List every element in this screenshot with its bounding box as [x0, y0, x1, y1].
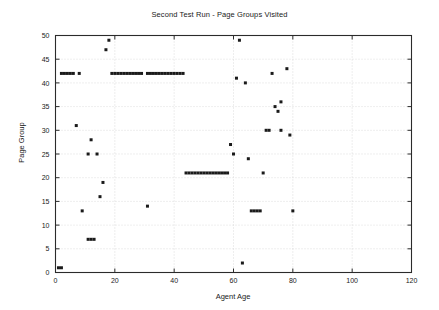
svg-text:80: 80: [289, 277, 297, 284]
svg-text:20: 20: [42, 174, 50, 181]
data-point: [164, 72, 167, 75]
data-point: [57, 266, 60, 269]
data-point: [220, 171, 223, 174]
chart-figure: Second Test Run - Page Groups Visited 05…: [0, 0, 439, 310]
data-point: [110, 72, 113, 75]
data-point: [96, 153, 99, 156]
data-point: [107, 39, 110, 42]
data-point: [214, 171, 217, 174]
svg-text:15: 15: [42, 198, 50, 205]
data-point: [265, 129, 268, 132]
svg-text:30: 30: [42, 127, 50, 134]
data-point: [119, 72, 122, 75]
data-point: [90, 138, 93, 141]
data-point: [199, 171, 202, 174]
data-point: [72, 72, 75, 75]
svg-text:50: 50: [42, 32, 50, 39]
data-point: [99, 195, 102, 198]
svg-text:45: 45: [42, 56, 50, 63]
data-point: [271, 72, 274, 75]
data-point: [256, 209, 259, 212]
data-point: [60, 72, 63, 75]
data-point: [60, 266, 63, 269]
data-point: [259, 209, 262, 212]
data-point: [182, 72, 185, 75]
data-point: [125, 72, 128, 75]
data-point: [247, 157, 250, 160]
svg-text:20: 20: [111, 277, 119, 284]
data-point: [170, 72, 173, 75]
data-point: [78, 72, 81, 75]
svg-text:100: 100: [346, 277, 358, 284]
data-point: [250, 209, 253, 212]
data-point: [104, 48, 107, 51]
data-point: [211, 171, 214, 174]
data-point: [101, 181, 104, 184]
data-point: [226, 171, 229, 174]
data-point: [93, 238, 96, 241]
svg-text:35: 35: [42, 103, 50, 110]
data-point: [262, 171, 265, 174]
data-point: [291, 209, 294, 212]
data-point: [155, 72, 158, 75]
scatter-plot: 05101520253035404550020406080100120: [0, 0, 439, 310]
x-axis-label: Agent Age: [55, 292, 411, 301]
data-point: [161, 72, 164, 75]
data-point: [81, 209, 84, 212]
data-point: [149, 72, 152, 75]
data-point: [128, 72, 131, 75]
svg-text:40: 40: [170, 277, 178, 284]
data-point: [288, 134, 291, 137]
data-point: [229, 143, 232, 146]
svg-text:5: 5: [46, 245, 50, 252]
data-point: [241, 262, 244, 265]
data-point: [235, 77, 238, 80]
data-point: [63, 72, 66, 75]
data-point: [279, 129, 282, 132]
data-point: [131, 72, 134, 75]
data-point: [87, 153, 90, 156]
data-point: [66, 72, 69, 75]
svg-text:25: 25: [42, 151, 50, 158]
data-point: [152, 72, 155, 75]
data-point: [253, 209, 256, 212]
svg-text:10: 10: [42, 222, 50, 229]
data-point: [268, 129, 271, 132]
data-point: [75, 124, 78, 127]
svg-text:0: 0: [54, 277, 58, 284]
data-point: [167, 72, 170, 75]
data-point: [134, 72, 137, 75]
data-point: [205, 171, 208, 174]
data-point: [285, 67, 288, 70]
data-point: [158, 72, 161, 75]
data-point: [232, 153, 235, 156]
data-point: [190, 171, 193, 174]
y-axis-label: Page Group: [17, 103, 26, 183]
data-point: [277, 110, 280, 113]
data-point: [90, 238, 93, 241]
data-point: [208, 171, 211, 174]
data-point: [140, 72, 143, 75]
svg-text:120: 120: [406, 277, 418, 284]
svg-text:0: 0: [46, 269, 50, 276]
data-point: [238, 39, 241, 42]
data-point: [196, 171, 199, 174]
data-point: [69, 72, 72, 75]
data-point: [173, 72, 176, 75]
data-point: [113, 72, 116, 75]
data-point: [217, 171, 220, 174]
data-point: [274, 105, 277, 108]
data-point: [193, 171, 196, 174]
data-point: [146, 205, 149, 208]
data-point: [122, 72, 125, 75]
data-point: [146, 72, 149, 75]
svg-text:40: 40: [42, 80, 50, 87]
data-point: [185, 171, 188, 174]
data-point: [279, 100, 282, 103]
data-point: [116, 72, 119, 75]
data-point: [137, 72, 140, 75]
data-point: [87, 238, 90, 241]
data-point: [176, 72, 179, 75]
svg-text:60: 60: [230, 277, 238, 284]
data-point: [179, 72, 182, 75]
